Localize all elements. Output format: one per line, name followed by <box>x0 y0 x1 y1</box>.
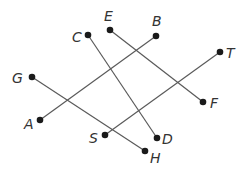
point-c <box>85 32 92 39</box>
labels-layer: ABCDEFGHST <box>12 8 236 166</box>
point-label-f: F <box>210 95 219 111</box>
point-f <box>200 99 207 106</box>
point-b <box>153 33 160 40</box>
point-label-s: S <box>89 130 98 146</box>
point-d <box>154 135 161 142</box>
segment-st <box>105 52 220 135</box>
point-label-t: T <box>226 45 236 61</box>
point-label-e: E <box>104 8 113 24</box>
point-label-h: H <box>150 150 161 166</box>
point-t <box>217 49 224 56</box>
point-s <box>102 132 109 139</box>
segment-ab <box>40 36 156 120</box>
points-layer <box>29 27 224 155</box>
point-g <box>29 74 36 81</box>
segments-layer <box>32 30 220 151</box>
point-a <box>37 117 44 124</box>
point-e <box>107 27 114 34</box>
point-label-a: A <box>23 116 34 132</box>
segment-ef <box>110 30 203 102</box>
point-label-g: G <box>12 70 23 86</box>
point-label-b: B <box>152 13 162 29</box>
point-label-c: C <box>72 29 82 45</box>
point-label-d: D <box>162 131 173 147</box>
segment-diagram: ABCDEFGHST <box>0 0 242 170</box>
point-h <box>142 148 149 155</box>
